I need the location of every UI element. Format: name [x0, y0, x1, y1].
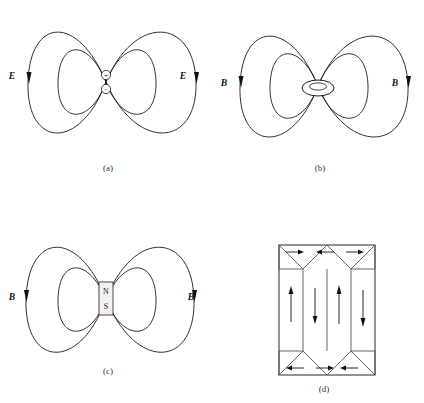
- closure-triangle-bottom-2: [327, 351, 375, 375]
- panel-c-bar-magnet: B B N S (c): [8, 247, 197, 376]
- field-line-outer-right: [106, 32, 196, 133]
- top-domain-arrows: [286, 250, 364, 255]
- field-label-right-b: B: [391, 78, 398, 88]
- caption-c: (c): [103, 366, 113, 376]
- field-arrow-left: [27, 72, 32, 84]
- bottom-arrow-1-left: [286, 366, 304, 371]
- closure-triangle-top-2: [327, 245, 375, 269]
- domain-arrow-1-up: [289, 286, 294, 322]
- field-line-inner-left: [58, 50, 106, 115]
- field-line-outer-left: [28, 32, 106, 133]
- positive-charge-label: +: [104, 72, 108, 80]
- field-line-outer-left-c: [26, 247, 106, 352]
- domain-arrow-2-down: [313, 288, 318, 324]
- field-line-inner-right-c: [106, 268, 156, 331]
- bar-magnet-icon: N S: [99, 282, 113, 315]
- panel-b-current-loop: B B (b): [220, 36, 411, 173]
- negative-charge-icon: −: [101, 84, 110, 93]
- field-line-inner-right: [106, 50, 156, 115]
- negative-charge-label: −: [104, 86, 108, 94]
- figure-canvas: E E + − (a): [0, 0, 424, 403]
- field-line-outer-right-c: [106, 247, 194, 352]
- field-arrow-right: [194, 72, 199, 84]
- physics-figure: E E + − (a): [0, 0, 424, 403]
- top-arrow-3-right: [346, 250, 364, 255]
- north-pole-label: N: [103, 287, 109, 296]
- panel-d-magnetic-domains: (d): [279, 245, 375, 394]
- domain-arrow-3-up: [337, 285, 342, 324]
- field-label-left-b: B: [220, 78, 227, 88]
- caption-a: (a): [103, 163, 113, 173]
- field-arrow-left-c: [24, 290, 29, 302]
- caption-d: (d): [319, 384, 330, 394]
- caption-b: (b): [315, 163, 326, 173]
- field-label-right-c: B: [187, 292, 194, 302]
- field-arrow-right-b: [406, 76, 411, 88]
- domain-arrow-4-down: [361, 290, 366, 327]
- positive-charge-icon: +: [101, 70, 110, 79]
- current-loop-icon: [302, 80, 334, 96]
- field-label-left-c: B: [8, 292, 15, 302]
- south-pole-label: S: [104, 302, 108, 311]
- top-closure-domains: [279, 245, 375, 269]
- bottom-closure-domains: [279, 351, 375, 375]
- domain-wall-group: [303, 269, 351, 351]
- field-arrow-left-b: [239, 76, 244, 88]
- closure-triangle-bottom-1: [279, 351, 327, 375]
- closure-triangle-top-1: [279, 245, 327, 269]
- panel-a-electric-dipole: E E + − (a): [8, 32, 199, 173]
- bottom-arrow-3-left: [340, 366, 358, 371]
- field-label-right-a: E: [179, 71, 186, 81]
- top-arrow-1-right: [286, 250, 304, 255]
- field-label-left-a: E: [8, 71, 15, 81]
